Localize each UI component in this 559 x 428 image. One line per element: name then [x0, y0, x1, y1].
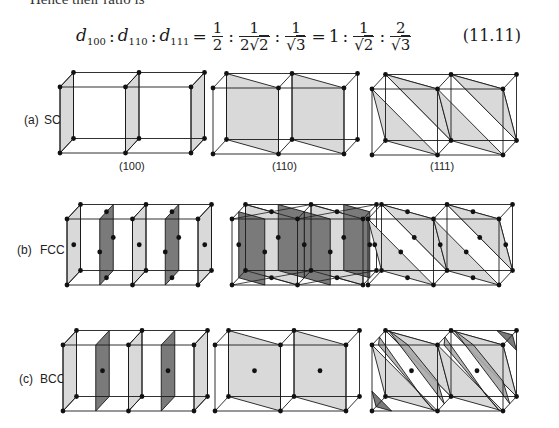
cube-edge	[503, 141, 517, 156]
corner-atom	[431, 217, 436, 222]
face-atom	[438, 242, 443, 247]
corner-atom	[205, 394, 210, 399]
corner-atom	[374, 202, 379, 207]
body-atom	[475, 368, 480, 373]
corner-atom	[61, 409, 66, 414]
lattice-fcc-plane-100	[65, 202, 214, 287]
row-lattice-bcc: BCC	[40, 372, 66, 386]
cube-edge	[213, 140, 227, 155]
corner-atom	[140, 394, 145, 399]
corner-atom	[224, 71, 229, 76]
cube-edge	[434, 205, 448, 220]
corner-atom	[211, 152, 216, 157]
body-atom	[252, 368, 257, 373]
corner-atom	[144, 268, 149, 273]
col-label-111: (111)	[430, 160, 454, 172]
col-label-100: (100)	[119, 160, 145, 172]
corner-atom	[65, 283, 70, 288]
corner-atom	[355, 137, 360, 142]
corner-atom	[137, 136, 142, 141]
corner-atom	[213, 409, 218, 414]
corner-atom	[209, 268, 214, 273]
corner-atom	[497, 283, 502, 288]
corner-atom	[292, 328, 297, 333]
cube-edge	[372, 75, 386, 90]
corner-atom	[226, 394, 231, 399]
corner-atom	[243, 268, 248, 273]
corner-atom	[192, 409, 197, 414]
face-atom	[477, 235, 482, 240]
corner-atom	[61, 343, 66, 348]
corner-atom	[379, 268, 384, 273]
corner-atom	[292, 394, 297, 399]
cube-edge	[503, 397, 517, 412]
corner-atom	[342, 86, 347, 91]
lattice-bcc-plane-110	[213, 328, 362, 413]
row-tag-b: (b)	[17, 243, 32, 257]
corner-atom	[449, 328, 454, 333]
cube-edge	[213, 74, 227, 89]
face-atom	[236, 242, 241, 247]
corner-atom	[123, 151, 128, 156]
corner-atom	[74, 328, 79, 333]
corner-atom	[290, 71, 295, 76]
corner-atom	[213, 343, 218, 348]
corner-atom	[290, 137, 295, 142]
face-atom	[471, 275, 476, 280]
row-tag-a: (a)	[24, 113, 39, 127]
corner-atom	[514, 72, 519, 77]
face-atom	[471, 209, 476, 214]
face-atom	[163, 250, 168, 255]
corner-atom	[309, 268, 314, 273]
lattice-planes-figure: (a) SC (100) (110) (111) (b) FCC (c) BCC	[0, 0, 559, 428]
face-atom	[412, 235, 417, 240]
corner-atom	[309, 202, 314, 207]
face-atom	[269, 275, 274, 280]
face-atom	[328, 250, 333, 255]
corner-atom	[205, 328, 210, 333]
corner-atom	[501, 153, 506, 158]
corner-atom	[501, 87, 506, 92]
corner-atom	[449, 138, 454, 143]
corner-atom	[276, 86, 281, 91]
corner-atom	[202, 70, 207, 75]
face-atom	[202, 242, 207, 247]
face-atom	[276, 235, 281, 240]
corner-atom	[344, 409, 349, 414]
corner-atom	[202, 136, 207, 141]
corner-atom	[196, 283, 201, 288]
corner-atom	[501, 343, 506, 348]
face-atom	[97, 250, 102, 255]
corner-atom	[366, 283, 371, 288]
lattice-bcc-plane-100	[61, 328, 210, 413]
corner-atom	[383, 138, 388, 143]
corner-atom	[74, 394, 79, 399]
cube-edge	[438, 141, 452, 156]
corner-atom	[342, 152, 347, 157]
body-atom	[409, 368, 414, 373]
body-atom	[166, 368, 171, 373]
corner-atom	[209, 202, 214, 207]
plane-100	[165, 205, 179, 286]
cube-edge	[279, 140, 293, 155]
cube-edge	[281, 397, 295, 412]
corner-atom	[189, 85, 194, 90]
lattice-sc-plane-111	[370, 72, 519, 157]
face-atom	[405, 275, 410, 280]
lattice-bcc-plane-111	[370, 328, 519, 413]
corner-atom	[379, 202, 384, 207]
face-atom	[104, 209, 109, 214]
cube-edge	[372, 141, 386, 156]
cube-edge	[344, 140, 358, 155]
corner-atom	[144, 202, 149, 207]
corner-atom	[211, 86, 216, 91]
lattice-fcc-plane-111	[366, 202, 515, 287]
corner-atom	[449, 394, 454, 399]
corner-atom	[65, 217, 70, 222]
cube-edge	[499, 205, 513, 220]
corner-atom	[383, 328, 388, 333]
corner-atom	[123, 85, 128, 90]
cube-edge	[281, 331, 295, 346]
corner-atom	[374, 268, 379, 273]
face-atom	[335, 275, 340, 280]
